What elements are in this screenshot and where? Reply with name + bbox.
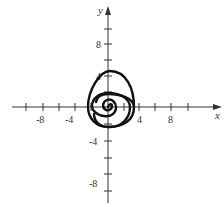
x-tick-label: 4 <box>137 114 142 125</box>
y-tick-label: 8 <box>96 39 101 50</box>
spiral-figure: -8 -4 4 8 x 8 4 -4 -8 y <box>0 0 224 207</box>
x-tick-label: -4 <box>65 114 73 125</box>
y-axis-label: y <box>97 4 103 16</box>
x-tick-label: 8 <box>168 114 173 125</box>
y-tick-label: -8 <box>89 178 97 189</box>
x-tick-label: -8 <box>36 114 44 125</box>
y-tick-label: -4 <box>89 136 97 147</box>
x-axis-label: x <box>214 109 220 121</box>
y-axis-arrow-icon <box>105 6 111 15</box>
